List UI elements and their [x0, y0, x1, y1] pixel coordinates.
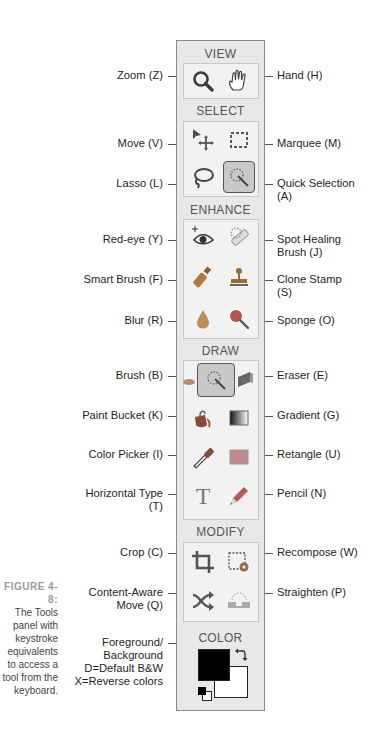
- selected-brush-tool[interactable]: [197, 363, 235, 397]
- leader-line: [265, 593, 273, 594]
- group-draw: T: [183, 360, 259, 520]
- leader-line: [265, 376, 273, 377]
- quick-selection-tool[interactable]: [223, 161, 255, 193]
- group-select: [183, 121, 259, 197]
- label-line: Quick Selection: [277, 177, 355, 190]
- label-line: (A): [277, 190, 355, 203]
- content-aware-move-tool[interactable]: [188, 586, 218, 616]
- label-line: X=Reverse colors: [74, 675, 163, 688]
- section-title-select: SELECT: [177, 104, 264, 118]
- red-eye-tool[interactable]: [188, 223, 218, 253]
- horizontal-type-tool[interactable]: T: [188, 481, 218, 511]
- lasso-tool[interactable]: [188, 162, 218, 192]
- rectangle-tool[interactable]: [224, 442, 254, 472]
- label-rectangle: Retangle (U): [277, 448, 340, 461]
- leader-line: [168, 455, 176, 456]
- label-zoom: Zoom (Z): [117, 69, 163, 82]
- hand-icon: [226, 68, 252, 94]
- label-color-picker: Color Picker (I): [88, 448, 163, 461]
- caption-line: tool from the: [0, 671, 58, 684]
- swap-colors-button[interactable]: [234, 648, 248, 662]
- label-blur: Blur (R): [124, 314, 163, 327]
- label-straighten: Straighten (P): [277, 586, 346, 599]
- eraser-tool[interactable]: [235, 365, 255, 395]
- brush-icon: [182, 373, 196, 387]
- figure-number: FIGURE 4-8:: [0, 580, 58, 606]
- clone-stamp-tool[interactable]: [224, 263, 254, 293]
- label-quick-selection: Quick Selection (A): [277, 177, 355, 203]
- label-foreground-background: Foreground/ Background D=Default B&W X=R…: [74, 636, 163, 688]
- straighten-tool[interactable]: [224, 586, 254, 616]
- smart-brush-tool[interactable]: [188, 263, 218, 293]
- smart-brush-icon: [190, 265, 216, 291]
- bucket-icon: [190, 405, 216, 431]
- label-marquee: Marquee (M): [277, 137, 341, 150]
- gradient-icon: [227, 406, 251, 430]
- label-content-aware-move: Content-Aware Move (Q): [89, 586, 163, 612]
- brush-tool[interactable]: [182, 365, 196, 395]
- label-crop: Crop (C): [120, 546, 163, 559]
- caption-line: keyboard.: [0, 684, 58, 697]
- section-title-view: VIEW: [177, 47, 264, 61]
- leader-line: [265, 455, 273, 456]
- paint-bucket-tool[interactable]: [188, 403, 218, 433]
- pencil-icon: [226, 483, 252, 509]
- crop-tool[interactable]: [188, 547, 218, 577]
- quick-selection-icon: [227, 165, 251, 189]
- leader-line: [265, 240, 273, 241]
- section-title-draw: DRAW: [177, 344, 264, 358]
- label-line: Content-Aware: [89, 586, 163, 599]
- zoom-tool[interactable]: [188, 66, 218, 96]
- label-brush: Brush (B): [116, 369, 163, 382]
- label-sponge: Sponge (O): [277, 314, 335, 327]
- shuffle-arrows-icon: [190, 588, 216, 614]
- marquee-icon: [227, 128, 251, 152]
- default-colors-button[interactable]: [198, 687, 212, 701]
- leader-line: [168, 321, 176, 322]
- marquee-tool[interactable]: [224, 125, 254, 155]
- color-picker-tool[interactable]: [188, 442, 218, 472]
- leader-line: [168, 280, 176, 281]
- caption-line: keystroke: [0, 632, 58, 645]
- move-arrows-icon: [190, 127, 216, 153]
- leader-line: [168, 376, 176, 377]
- label-red-eye: Red-eye (Y): [103, 233, 163, 246]
- leader-line: [265, 280, 273, 281]
- label-line: Clone Stamp: [277, 273, 342, 286]
- caption-line: panel with: [0, 619, 58, 632]
- swap-arrows-icon: [234, 648, 248, 662]
- label-hand: Hand (H): [277, 69, 322, 82]
- label-line: Horizontal Type: [85, 487, 163, 500]
- straighten-icon: [226, 588, 252, 614]
- caption-line: to access a: [0, 658, 58, 671]
- label-clone-stamp: Clone Stamp (S): [277, 273, 342, 299]
- leader-line: [168, 416, 176, 417]
- foreground-color-swatch[interactable]: [198, 649, 230, 681]
- crop-icon: [190, 549, 216, 575]
- spot-healing-brush-tool[interactable]: [224, 223, 254, 253]
- pencil-tool[interactable]: [224, 481, 254, 511]
- label-pencil: Pencil (N): [277, 487, 326, 500]
- label-line: (S): [277, 286, 342, 299]
- blur-tool[interactable]: [188, 304, 218, 334]
- leader-line: [168, 240, 176, 241]
- hand-tool[interactable]: [224, 66, 254, 96]
- label-line: (T): [85, 500, 163, 513]
- magnifier-icon: [191, 69, 215, 93]
- sponge-icon: [227, 307, 251, 331]
- eraser-icon: [236, 369, 254, 391]
- svg-text:T: T: [196, 483, 211, 509]
- tools-panel: VIEW SELECT ENHANCE: [176, 40, 265, 711]
- label-spot-healing: Spot Healing Brush (J): [277, 233, 341, 259]
- gradient-tool[interactable]: [224, 403, 254, 433]
- rectangle-icon: [227, 445, 251, 469]
- stamp-icon: [226, 265, 252, 291]
- leader-line: [168, 144, 176, 145]
- recompose-tool[interactable]: [224, 547, 254, 577]
- group-modify: [183, 542, 259, 622]
- leader-line: [265, 144, 273, 145]
- drop-icon: [191, 307, 215, 331]
- move-tool[interactable]: [188, 125, 218, 155]
- sponge-tool[interactable]: [224, 304, 254, 334]
- label-eraser: Eraser (E): [277, 369, 328, 382]
